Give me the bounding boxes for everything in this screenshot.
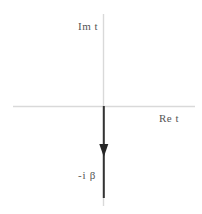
arrowhead-down-icon: [99, 144, 108, 157]
complex-plane-figure: Im t Re t -i β: [0, 0, 202, 214]
contour-endpoint-label: -i β: [78, 170, 96, 181]
figure-canvas: [0, 0, 202, 214]
imaginary-axis-label: Im t: [78, 21, 98, 32]
real-axis-label: Re t: [159, 113, 179, 124]
